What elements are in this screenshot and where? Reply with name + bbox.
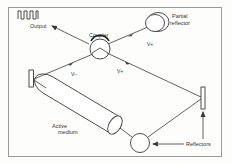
beam-to-active-medium (34, 80, 46, 88)
partial-reflector-label-2: reflector (170, 20, 190, 26)
reflectors-label: Reflectors (186, 141, 211, 147)
beam-v-plus (107, 53, 201, 97)
ring-laser-diagram: Output Coupler V+ Partial reflector V− V… (0, 0, 232, 164)
v-plus-top-label: V+ (147, 41, 153, 47)
partial-reflector-icon (146, 13, 170, 32)
coupler-icon (90, 39, 110, 59)
output-beam (52, 26, 89, 44)
active-medium-icon (34, 74, 128, 137)
beam-v-minus (34, 54, 93, 79)
left-reflector-icon (29, 70, 34, 87)
right-reflector-icon (201, 87, 205, 109)
beam-to-partial-reflector (108, 27, 148, 44)
output-label: Output (30, 23, 47, 29)
active-medium-label-2: medium (58, 129, 78, 135)
beam-bottom-to-right (148, 99, 201, 137)
bottom-reflector-icon (131, 134, 150, 153)
v-plus-bottom-label: V+ (117, 68, 123, 74)
diagram-svg: Output Coupler V+ Partial reflector V− V… (0, 0, 232, 164)
v-minus-label: V− (71, 71, 77, 77)
square-wave-icon (18, 11, 38, 19)
partial-reflector-label-1: Partial (172, 13, 188, 19)
